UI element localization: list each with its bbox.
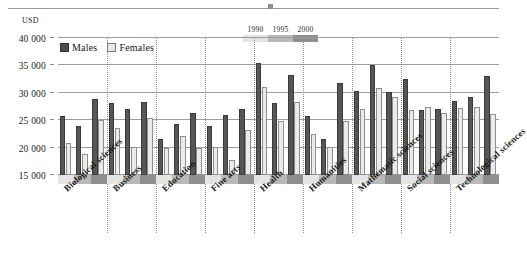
bar-female	[196, 148, 202, 175]
top-rule-tick-marker	[268, 4, 273, 9]
y-tick-mark	[50, 64, 54, 65]
y-tick-label: 20 000	[19, 144, 46, 154]
y-tick-label: 25 000	[19, 116, 46, 126]
y-tick-label: 40 000	[19, 34, 46, 44]
bar-male	[141, 102, 147, 175]
bar-male	[403, 79, 409, 175]
category-group	[156, 38, 205, 175]
y-tick-mark	[50, 92, 54, 93]
year-block	[123, 38, 139, 175]
band-year-swatch	[434, 175, 450, 184]
category-group	[107, 38, 156, 175]
category-group	[254, 38, 303, 175]
year-block	[221, 38, 237, 175]
bar-male	[207, 126, 213, 175]
year-block	[58, 38, 74, 175]
band-year-swatch	[140, 175, 156, 184]
y-tick-mark	[50, 119, 54, 120]
year-block	[417, 38, 433, 175]
year-block	[254, 38, 270, 175]
bar-female	[164, 148, 170, 175]
bar-male	[288, 75, 294, 175]
bar-male	[158, 139, 164, 175]
year-legend-label: 2000	[293, 25, 318, 34]
bar-male	[223, 115, 229, 175]
year-block	[140, 38, 156, 175]
year-block	[319, 38, 335, 175]
year-block	[466, 38, 482, 175]
bar-female	[262, 87, 268, 175]
year-block	[205, 38, 221, 175]
band-year-swatch	[385, 175, 401, 184]
year-legend-label: 1995	[268, 25, 293, 34]
bar-male	[125, 109, 131, 175]
bars-layer	[58, 38, 499, 175]
year-legend-labels: 199019952000	[243, 25, 318, 34]
band-year-swatch	[483, 175, 499, 184]
band-year-swatch	[336, 175, 352, 184]
category-group	[205, 38, 254, 175]
bar-male	[239, 109, 245, 175]
bar-male	[256, 63, 262, 175]
bar-male	[305, 116, 311, 175]
bar-male	[370, 65, 376, 175]
year-block	[352, 38, 368, 175]
year-block	[336, 38, 352, 175]
bar-male	[60, 116, 66, 175]
bar-male	[174, 124, 180, 175]
year-block	[172, 38, 188, 175]
year-block	[238, 38, 254, 175]
y-tick-label: 35 000	[19, 61, 46, 71]
year-block	[287, 38, 303, 175]
category-group	[303, 38, 352, 175]
bar-female	[147, 118, 153, 175]
bar-female	[66, 143, 72, 175]
bar-female	[245, 130, 251, 175]
band-year-swatch	[238, 175, 254, 184]
year-block	[156, 38, 172, 175]
bar-male	[468, 97, 474, 175]
y-tick-label: 30 000	[19, 89, 46, 99]
y-tick-mark	[50, 147, 54, 148]
bar-female	[311, 134, 317, 175]
top-divider-rule	[8, 8, 499, 9]
y-axis-unit-label: USD	[22, 16, 39, 25]
bar-female	[343, 121, 349, 175]
y-tick-label: 15 000	[19, 171, 46, 181]
bar-male	[272, 103, 278, 175]
bar-female	[458, 108, 464, 175]
x-axis-category-labels: Biological sciencesBusinessEducationFine…	[58, 186, 499, 264]
band-year-swatch	[91, 175, 107, 184]
year-block	[303, 38, 319, 175]
y-tick-mark	[50, 174, 54, 175]
year-block	[74, 38, 90, 175]
band-year-swatch	[189, 175, 205, 184]
bar-male	[354, 91, 360, 175]
year-block	[189, 38, 205, 175]
y-axis-ticks: 15 00020 00025 00030 00035 00040 000	[0, 38, 54, 175]
bar-female	[294, 102, 300, 175]
y-tick-mark	[50, 37, 54, 38]
year-block	[368, 38, 384, 175]
year-legend-label: 1990	[243, 25, 268, 34]
bar-female	[360, 109, 366, 175]
bar-male	[452, 101, 458, 175]
year-block	[270, 38, 286, 175]
bar-male	[419, 110, 425, 175]
bar-female	[213, 147, 219, 175]
band-year-swatch	[287, 175, 303, 184]
bar-female	[278, 121, 284, 175]
